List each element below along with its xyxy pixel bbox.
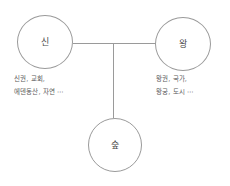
- node-god-label: 신: [41, 38, 49, 47]
- caption-god-line-1: 신권, 교회,: [14, 76, 64, 83]
- caption-king: 왕권, 국가, 왕궁, 도시 ⋯: [156, 76, 194, 97]
- node-forest-label: 숲: [111, 141, 119, 150]
- node-king-label: 왕: [179, 40, 187, 49]
- concept-diagram: 신 왕 숲 신권, 교회, 에덴동산, 자연 ⋯ 왕권, 국가, 왕궁, 도시 …: [0, 0, 230, 186]
- node-forest[interactable]: 숲: [88, 118, 142, 172]
- node-god[interactable]: 신: [17, 15, 73, 69]
- node-king[interactable]: 왕: [155, 17, 211, 71]
- caption-king-line-1: 왕권, 국가,: [156, 76, 194, 83]
- caption-god: 신권, 교회, 에덴동산, 자연 ⋯: [14, 76, 64, 97]
- caption-god-line-2: 에덴동산, 자연 ⋯: [14, 89, 64, 96]
- caption-king-line-2: 왕궁, 도시 ⋯: [156, 89, 194, 96]
